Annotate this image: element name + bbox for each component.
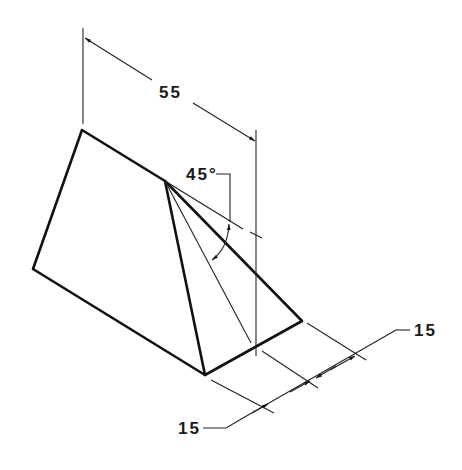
extension-line-mid [262,351,318,388]
bottom-offset-label: 15 [178,419,201,438]
bottom-leader [203,418,243,428]
prism-outline [33,130,302,375]
angle-label: 45° [186,165,218,184]
angle-projection-line [165,181,251,343]
extension-line-right-vertex [307,323,366,360]
offset-dimensions: 15 15 [178,321,437,438]
wedge-drawing: 55 45° 15 15 [0,0,462,470]
angle-leader [216,174,230,222]
length-label: 55 [159,83,182,102]
dim-line-right [193,103,255,141]
left-face [33,130,205,375]
right-offset-label: 15 [414,321,437,340]
dim-line-left [85,38,152,80]
arrow-mid [290,381,310,392]
extension-line-bottom-vertex [211,380,274,413]
arrow-right-2 [316,366,336,378]
